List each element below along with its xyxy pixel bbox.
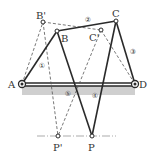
label-d: D bbox=[139, 79, 147, 90]
label-a: A bbox=[7, 79, 16, 90]
link-label-5: ⑤ bbox=[65, 90, 71, 98]
joint-b bbox=[55, 29, 59, 33]
link-label-4: ④ bbox=[92, 92, 98, 100]
label-c: C bbox=[112, 8, 120, 19]
joint-p-prime bbox=[56, 134, 60, 138]
link-label-1: ① bbox=[39, 62, 45, 70]
joint-p bbox=[90, 134, 94, 138]
joint-c-prime bbox=[99, 28, 103, 32]
link-label-3: ③ bbox=[130, 48, 136, 56]
label-b: B bbox=[61, 33, 68, 44]
main-linkage bbox=[22, 21, 135, 136]
linkage-diagram: A D B C B' C' P P' ① ② ③ ④ ⑤ bbox=[0, 0, 154, 158]
label-c-prime: C' bbox=[89, 32, 99, 43]
link-label-2: ② bbox=[85, 16, 91, 24]
label-p-prime: P' bbox=[53, 142, 62, 153]
label-b-prime: B' bbox=[36, 10, 46, 21]
label-p: P bbox=[88, 142, 95, 153]
alternate-position bbox=[22, 22, 135, 136]
joint-c bbox=[114, 19, 118, 23]
